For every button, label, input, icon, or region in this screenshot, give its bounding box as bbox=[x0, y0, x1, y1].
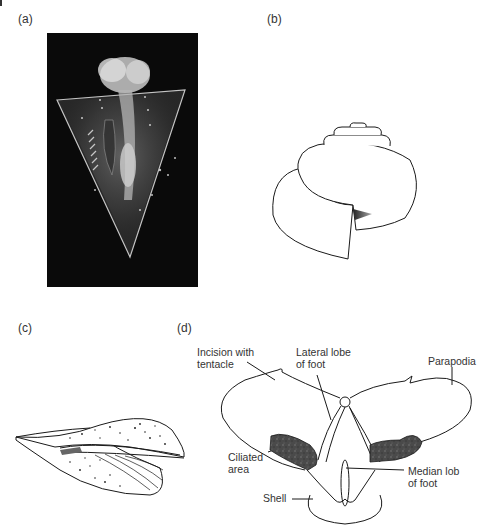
label-lateral-lobe-of-foot: Lateral lobe of foot bbox=[296, 346, 351, 370]
label-ciliated-area: Ciliated area bbox=[228, 451, 263, 475]
ciliated-area-left bbox=[270, 434, 317, 470]
panel-b-shell-drawing bbox=[273, 123, 417, 259]
label-shell: Shell bbox=[263, 492, 286, 504]
label-incision-with-tentacle: Incision with tentacle bbox=[197, 346, 254, 370]
ciliated-area-right bbox=[370, 435, 422, 462]
label-parapodia: Parapodia bbox=[428, 355, 476, 367]
panel-d-pteropod-drawing bbox=[221, 362, 471, 524]
label-median-lobe-of-foot: Median lob of foot bbox=[408, 465, 459, 489]
panel-a-photo bbox=[47, 33, 198, 287]
panel-c-winged-shell-drawing bbox=[16, 419, 184, 495]
